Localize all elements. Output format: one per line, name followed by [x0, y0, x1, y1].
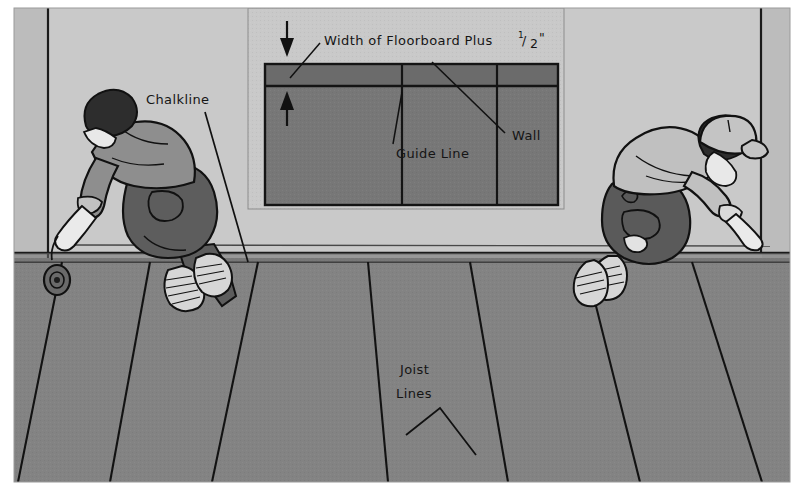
scene-group: Width of Floorboard Plus 1 / 2 " Wall Gu…: [14, 8, 790, 482]
inset-fraction-slash: /: [522, 33, 527, 48]
inset-detail-panel: Width of Floorboard Plus 1 / 2 " Wall Gu…: [248, 8, 564, 209]
joist-lines-label-line1: Joist: [399, 362, 429, 377]
left-wall-panel: [14, 8, 48, 266]
inset-dimension-unit: ": [539, 30, 545, 45]
inset-fraction-denominator: 2: [530, 36, 538, 51]
inset-wall-label: Wall: [512, 128, 541, 143]
illustration-svg: Width of Floorboard Plus 1 / 2 " Wall Gu…: [0, 0, 804, 492]
chalk-reel-hub: [54, 277, 60, 283]
joist-lines-label-line2: Lines: [396, 386, 432, 401]
inset-guide-line-label: Guide Line: [396, 146, 469, 161]
chalkline-label: Chalkline: [146, 92, 209, 107]
inset-wall-strip: [265, 64, 558, 86]
right-wall-panel: [762, 8, 790, 258]
inset-dimension-label: Width of Floorboard Plus: [324, 33, 493, 48]
illustration-canvas: Width of Floorboard Plus 1 / 2 " Wall Gu…: [0, 0, 804, 492]
